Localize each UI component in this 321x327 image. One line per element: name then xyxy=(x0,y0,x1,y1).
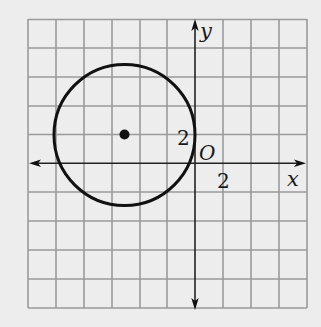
x-tick-label: 2 xyxy=(217,169,230,193)
y-tick-label: 2 xyxy=(177,126,190,150)
circle-center-point xyxy=(120,130,130,140)
y-axis xyxy=(191,19,198,310)
origin-label: O xyxy=(199,141,215,165)
x-axis-label: x xyxy=(287,167,299,191)
coordinate-plane: y x O 2 2 xyxy=(0,0,321,327)
y-axis-label: y xyxy=(199,19,213,43)
